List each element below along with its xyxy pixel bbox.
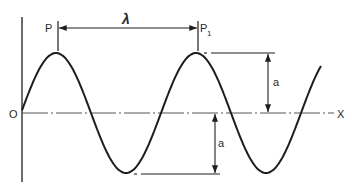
- amplitude-upper-label: a: [273, 76, 280, 88]
- wavelength-label: λ: [121, 11, 130, 27]
- wave-diagram: O X P P 1 λ a a: [0, 0, 353, 188]
- origin-label: O: [9, 108, 18, 120]
- x-axis-label: X: [337, 108, 345, 120]
- point-p-label: P: [45, 22, 52, 34]
- amplitude-lower-label: a: [218, 137, 225, 149]
- point-p1-subscript: 1: [207, 29, 212, 38]
